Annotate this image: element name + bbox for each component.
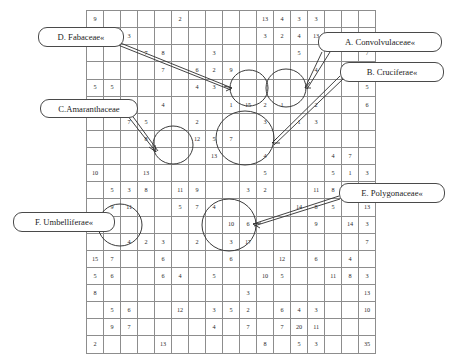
circle-c (153, 126, 193, 164)
grid-cell: 7 (240, 319, 257, 336)
grid-cell (87, 319, 104, 336)
grid-cell (325, 336, 342, 353)
grid-cell (189, 267, 206, 284)
grid-cell: 3 (240, 285, 257, 302)
grid-cell (104, 336, 121, 353)
grid-cell (274, 336, 291, 353)
grid-cell: 7 (121, 319, 138, 336)
grid-cell (189, 285, 206, 302)
grid-cell (172, 336, 189, 353)
grid-cell: 8 (257, 336, 274, 353)
grid-cell (342, 336, 359, 353)
callout-d-label: D. Fabaceae« (58, 32, 105, 42)
circle-a (266, 69, 306, 107)
grid-row: 561235264310 (87, 302, 376, 319)
grid-cell: 2 (240, 302, 257, 319)
grid-cell: 4 (172, 267, 189, 284)
grid-cell: 11 (325, 267, 342, 284)
grid-cell (138, 336, 155, 353)
callout-b-label: B. Cruciferae« (367, 67, 418, 77)
grid-cell (342, 319, 359, 336)
circle-b (230, 70, 268, 106)
grid-cell: 4 (291, 302, 308, 319)
grid-cell (189, 336, 206, 353)
grid-cell (257, 302, 274, 319)
callout-e-polygonaceae[interactable]: E. Polygonaceae« (339, 183, 445, 203)
grid-cell (206, 285, 223, 302)
callout-d-fabaceae[interactable]: D. Fabaceae« (38, 27, 124, 47)
grid-cell (308, 285, 325, 302)
grid-cell (138, 302, 155, 319)
grid-cell (274, 285, 291, 302)
grid-cell: 5 (206, 267, 223, 284)
grid-row: 21385335 (87, 336, 376, 353)
grid-cell (138, 267, 155, 284)
leader-arrow-c (149, 145, 156, 152)
grid-cell (342, 285, 359, 302)
grid-cell: 8 (342, 267, 359, 284)
callout-c-label: C.Amaranthaceae (58, 104, 119, 114)
grid-cell (325, 285, 342, 302)
grid-cell (325, 302, 342, 319)
grid-cell: 7 (274, 319, 291, 336)
grid-cell (155, 285, 172, 302)
grid-cell (189, 319, 206, 336)
grid-cell (359, 319, 376, 336)
grid-cell: 10 (359, 302, 376, 319)
grid-cell (223, 267, 240, 284)
grid-cell (223, 336, 240, 353)
grid-cell: 8 (87, 285, 104, 302)
grid-cell: 5 (291, 336, 308, 353)
grid-cell (155, 319, 172, 336)
leader-line-b2 (274, 79, 343, 145)
grid-cell: 35 (359, 336, 376, 353)
leader-line-c (127, 115, 156, 152)
leader-line-a2 (307, 52, 330, 89)
grid-cell: 13 (155, 336, 172, 353)
grid-cell: 10 (257, 267, 274, 284)
grid-row: 974772011 (87, 319, 376, 336)
grid-cell (172, 285, 189, 302)
grid-cell (223, 319, 240, 336)
leader-line-e2 (254, 199, 340, 226)
grid-cell (104, 285, 121, 302)
grid-cell: 6 (274, 302, 291, 319)
circle-e (202, 199, 256, 251)
callout-a-convolvulaceae[interactable]: A. Convolvulaceae« (318, 32, 442, 52)
grid-cell: 12 (172, 302, 189, 319)
grid-cell (223, 285, 240, 302)
grid-cell (342, 302, 359, 319)
grid-cell (291, 267, 308, 284)
grid-cell: 2 (87, 336, 104, 353)
grid-cell: 5 (274, 267, 291, 284)
grid-cell: 6 (155, 267, 172, 284)
callout-f-label: F. Umbelliferae« (35, 217, 93, 227)
grid-cell: 9 (104, 319, 121, 336)
grid-cell: 11 (308, 319, 325, 336)
grid-cell (257, 285, 274, 302)
grid-cell: 3 (308, 336, 325, 353)
grid-cell: 3 (206, 302, 223, 319)
grid-cell: 5 (87, 267, 104, 284)
grid-cell (121, 285, 138, 302)
grid-cell (172, 319, 189, 336)
grid-cell: 4 (206, 319, 223, 336)
grid-cell: 5 (223, 302, 240, 319)
grid-cell: 5 (104, 302, 121, 319)
grid-cell: 3 (359, 267, 376, 284)
callout-c-amaranthaceae[interactable]: C.Amaranthaceae (40, 99, 138, 118)
grid-row: 566451051183 (87, 267, 376, 284)
grid-cell (189, 302, 206, 319)
callout-f-umbelliferae[interactable]: F. Umbelliferae« (13, 212, 115, 232)
callout-e-label: E. Polygonaceae« (361, 188, 423, 198)
leader-line-d (113, 40, 232, 88)
callout-a-label: A. Convolvulaceae« (345, 37, 415, 47)
grid-cell: 20 (291, 319, 308, 336)
leader-line-d2 (113, 43, 231, 90)
leader-line-c2 (131, 114, 158, 151)
callout-b-cruciferae[interactable]: B. Cruciferae« (340, 62, 444, 82)
grid-cell (87, 302, 104, 319)
grid-cell (138, 319, 155, 336)
grid-cell (121, 336, 138, 353)
